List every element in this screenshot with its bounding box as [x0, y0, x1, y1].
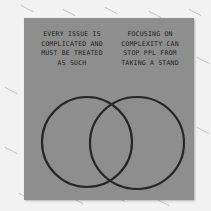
bg-mark [5, 87, 18, 94]
venn-diagram [24, 18, 194, 200]
right-circle [90, 97, 184, 189]
bg-mark [5, 147, 18, 154]
bg-mark [21, 5, 34, 12]
bg-mark [189, 9, 202, 16]
sticky-note: EVERY ISSUE IS COMPLICATED AND MUST BE T… [24, 18, 194, 200]
bg-mark [197, 127, 210, 134]
bg-mark [105, 7, 118, 14]
left-circle [42, 97, 132, 187]
bg-mark [63, 9, 76, 16]
bg-mark [197, 57, 210, 64]
